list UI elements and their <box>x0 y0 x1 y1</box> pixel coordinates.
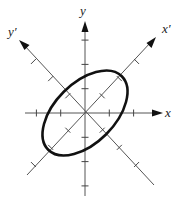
y-prime-axis-tick <box>100 128 105 133</box>
x-axis-arrowhead <box>152 110 163 117</box>
x-prime-axis-arrowhead <box>147 37 157 48</box>
y-prime-axis-tick <box>65 93 70 98</box>
y-prime-axis-label: y′ <box>6 24 17 39</box>
y-prime-axis-tick <box>31 59 36 64</box>
y-axis-label: y <box>78 3 86 18</box>
y-axis-arrowhead <box>82 21 89 32</box>
x-prime-axis-label: x′ <box>161 21 171 36</box>
diagram-canvas: y x x′ y′ <box>0 0 181 203</box>
y-prime-axis <box>24 45 154 185</box>
y-prime-axis-tick <box>48 76 53 81</box>
x-prime-axis <box>27 42 151 175</box>
x-prime-axis-tick <box>134 59 139 64</box>
x-prime-axis-tick <box>31 162 36 167</box>
x-axis-label: x <box>164 105 171 120</box>
